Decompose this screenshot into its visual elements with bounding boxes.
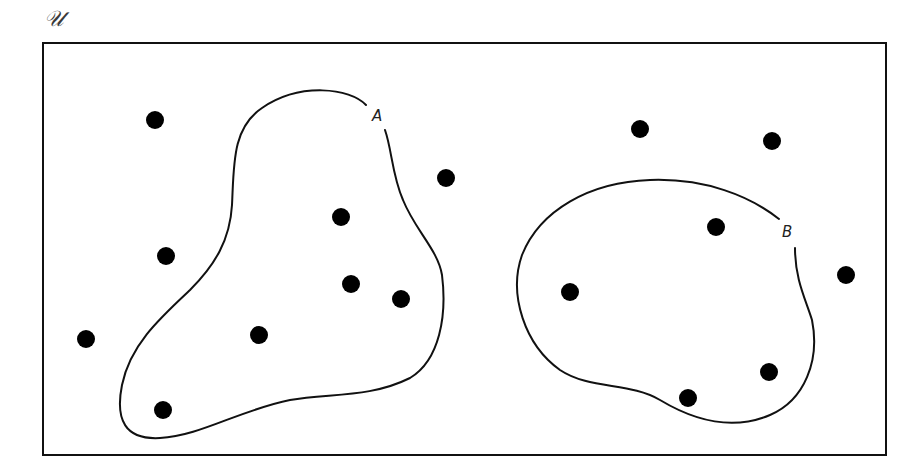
set-a-label: A <box>371 107 382 125</box>
element-point <box>154 401 172 419</box>
element-point <box>342 275 360 293</box>
element-points <box>77 111 855 419</box>
element-point <box>250 326 268 344</box>
element-point <box>763 132 781 150</box>
set-b-label: B <box>782 223 792 241</box>
element-point <box>146 111 164 129</box>
element-point <box>679 389 697 407</box>
element-point <box>631 120 649 138</box>
element-point <box>707 218 725 236</box>
element-point <box>157 247 175 265</box>
element-point <box>760 363 778 381</box>
element-point <box>332 208 350 226</box>
element-point <box>437 169 455 187</box>
element-point <box>837 266 855 284</box>
set-b-boundary <box>517 180 814 423</box>
element-point <box>77 330 95 348</box>
element-point <box>561 283 579 301</box>
element-point <box>392 290 410 308</box>
venn-canvas: A B <box>0 0 923 467</box>
